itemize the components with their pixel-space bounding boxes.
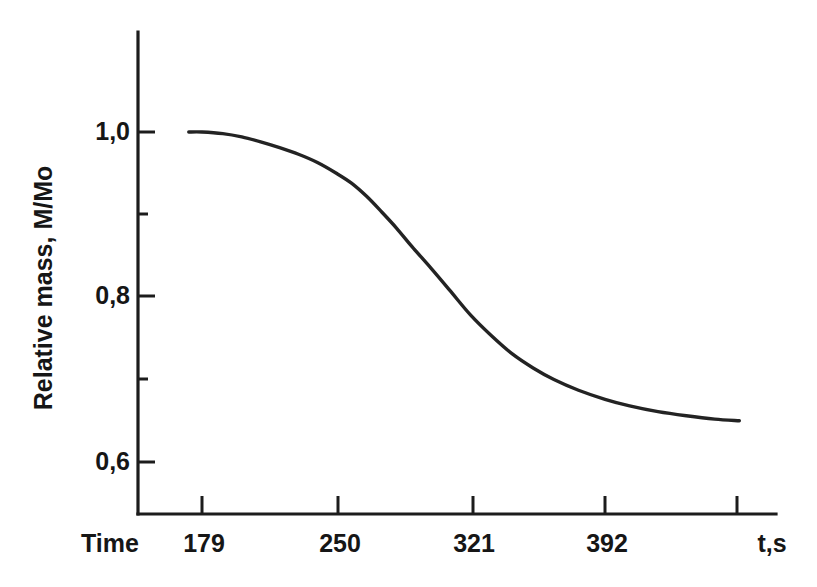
x-tick-label-179: 179 (183, 529, 225, 557)
x-tick-label-392: 392 (586, 529, 628, 557)
y-axis-title: Relative mass, M/Mo (29, 166, 57, 411)
x-tick-label-321: 321 (453, 529, 495, 557)
figure-canvas: 1,0 0,8 0,6 179 250 321 392 Time t,s Rel… (0, 0, 817, 587)
y-tick-label-0.6: 0,6 (95, 447, 130, 475)
x-tick-label-250: 250 (319, 529, 361, 557)
line-chart: 1,0 0,8 0,6 179 250 321 392 Time t,s Rel… (0, 0, 817, 587)
x-axis-unit-label: t,s (757, 529, 786, 557)
y-tick-label-0.8: 0,8 (95, 281, 130, 309)
x-axis-title: Time (81, 529, 139, 557)
data-series-line (189, 132, 740, 421)
y-tick-label-1.0: 1,0 (95, 117, 130, 145)
